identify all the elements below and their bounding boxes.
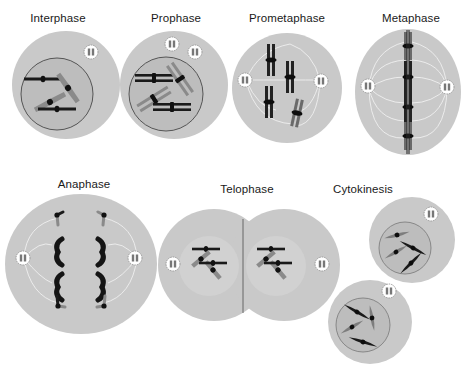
prometaphase-cell: [232, 33, 342, 143]
centrosome-icon: [424, 207, 438, 221]
stage-label-metaphase: Metaphase: [382, 12, 440, 24]
centrosome-icon: [361, 79, 375, 93]
stage-label-cytokinesis: Cytokinesis: [333, 183, 393, 195]
centrosome-icon: [166, 257, 180, 271]
centrosome-icon: [314, 74, 328, 88]
stage-label-anaphase: Anaphase: [58, 178, 111, 190]
interphase-cell: [12, 31, 120, 139]
centrosome-icon: [165, 37, 179, 51]
telophase-cell: [158, 209, 340, 321]
stage-label-interphase: Interphase: [30, 12, 85, 24]
centrosome-icon: [238, 73, 252, 87]
centrosome-icon: [382, 284, 396, 298]
stage-label-prophase: Prophase: [151, 12, 201, 24]
centrosome-icon: [16, 251, 30, 265]
prophase-cell: [120, 31, 228, 139]
anaphase-cell: [5, 194, 157, 334]
cytokinesis-cell-lower: [328, 280, 412, 364]
centrosome-icon: [315, 257, 329, 271]
metaphase-cell: [355, 29, 461, 155]
cytokinesis-cell-upper: [369, 197, 455, 283]
centrosome-icon: [188, 45, 202, 59]
stage-label-telophase: Telophase: [220, 183, 273, 195]
centrosome-icon: [84, 45, 98, 59]
centrosome-icon: [128, 251, 142, 265]
centrosome-icon: [440, 80, 454, 94]
stage-label-prometaphase: Prometaphase: [249, 12, 325, 24]
